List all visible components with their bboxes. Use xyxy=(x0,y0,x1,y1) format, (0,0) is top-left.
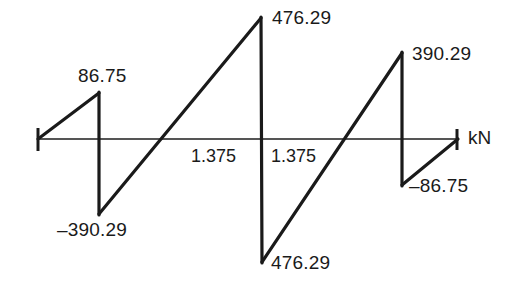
shear-rise-segment-1 xyxy=(38,93,99,139)
axis-unit-label: kN xyxy=(468,128,491,147)
value-label-trough-2: 476.29 xyxy=(271,253,330,272)
shear-force-diagram: 86.75 –390.29 476.29 476.29 390.29 –86.7… xyxy=(0,0,519,291)
shear-drop-segment-2 xyxy=(261,17,262,263)
value-label-peak-3: 390.29 xyxy=(412,44,471,63)
shear-rise-segment-2 xyxy=(99,18,261,214)
value-label-trough-1: –390.29 xyxy=(57,220,127,239)
value-label-trough-3: –86.75 xyxy=(409,176,468,195)
value-label-peak-2: 476.29 xyxy=(272,8,331,27)
dimension-label-right: 1.375 xyxy=(271,147,316,165)
value-label-peak-1: 86.75 xyxy=(78,66,127,85)
dimension-label-left: 1.375 xyxy=(191,147,236,165)
